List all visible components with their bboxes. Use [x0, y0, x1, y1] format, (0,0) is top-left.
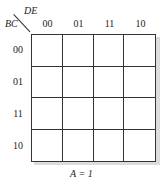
kmap-grid: [31, 34, 156, 162]
kmap-cell: [63, 35, 94, 67]
column-label: 01: [63, 18, 94, 29]
column-label: 00: [32, 18, 63, 29]
kmap-cell: [94, 67, 125, 99]
kmap-cell: [32, 67, 63, 99]
kmap-cell: [94, 35, 125, 67]
row-variable-label: BC: [5, 18, 18, 29]
kmap-cell: [32, 130, 63, 162]
kmap-cell: [94, 130, 125, 162]
kmap-cell: [63, 67, 94, 99]
kmap-cell: [32, 35, 63, 67]
row-label: 00: [8, 44, 28, 55]
row-label: 01: [8, 76, 28, 87]
kmap-cell: [124, 98, 155, 130]
map-caption: A = 1: [70, 168, 93, 179]
kmap-cell: [124, 35, 155, 67]
row-label: 10: [8, 140, 28, 151]
column-label: 10: [125, 18, 156, 29]
column-label: 11: [94, 18, 125, 29]
row-label: 11: [8, 108, 28, 119]
kmap-cell: [124, 67, 155, 99]
column-variable-label: DE: [24, 5, 37, 16]
kmap-cell: [124, 130, 155, 162]
kmap-cell: [32, 98, 63, 130]
kmap-cell: [63, 130, 94, 162]
kmap-cell: [94, 98, 125, 130]
kmap-cell: [63, 98, 94, 130]
